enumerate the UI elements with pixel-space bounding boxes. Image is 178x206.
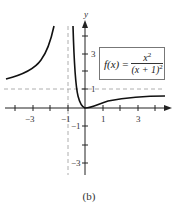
x-tick-label: 3 <box>136 115 141 124</box>
formula-fraction: x2 (x + 1)2 <box>131 52 162 76</box>
figure-caption: (b) <box>0 190 178 202</box>
formula-equals: = <box>122 58 128 70</box>
formula-lhs: f(x) <box>104 58 119 70</box>
function-graph <box>0 0 178 206</box>
y-tick-label: 3 <box>91 50 96 59</box>
x-axis-arrow-icon <box>164 105 172 111</box>
y-tick-label: 1 <box>91 85 96 94</box>
y-tick-label: −3 <box>71 159 81 168</box>
y-axis-label: y <box>84 9 88 19</box>
y-axis-arrow-icon <box>82 20 88 28</box>
x-tick-label: −3 <box>25 115 35 124</box>
y-tick-label: −1 <box>71 122 81 131</box>
x-tick-label: −1 <box>61 115 71 124</box>
curve-left-branch <box>6 26 54 79</box>
formula-numerator: x2 <box>141 52 153 63</box>
x-tick-label: 1 <box>101 115 106 124</box>
formula-denominator: (x + 1)2 <box>131 64 162 76</box>
formula-box: f(x) = x2 (x + 1)2 <box>99 47 165 80</box>
